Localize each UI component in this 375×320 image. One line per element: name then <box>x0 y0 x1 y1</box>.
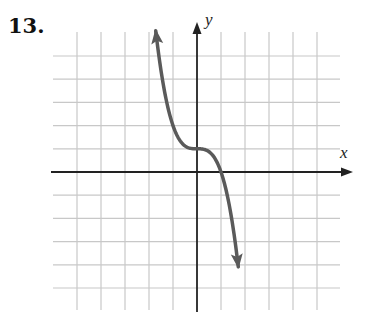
axes <box>51 22 353 312</box>
x-axis-arrow-icon <box>341 168 353 177</box>
graph <box>0 0 375 320</box>
y-axis-arrow-icon <box>193 22 202 34</box>
